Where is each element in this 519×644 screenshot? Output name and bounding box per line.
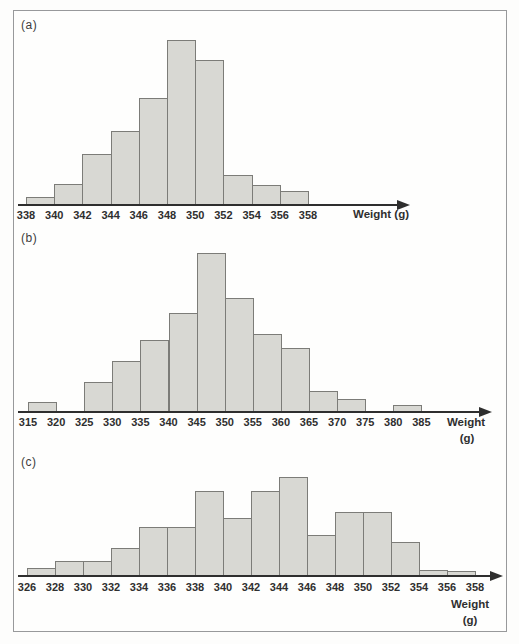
histogram-bar (195, 60, 224, 205)
x-tick-label: 346 (130, 209, 148, 221)
histogram-bar (279, 477, 308, 576)
panel-label-a: (a) (21, 18, 37, 32)
x-axis-line (18, 575, 493, 577)
histogram-bar (363, 512, 392, 576)
histogram-bar (84, 382, 113, 412)
histogram-bar (223, 175, 252, 205)
x-tick-label: 340 (214, 581, 232, 593)
x-tick-label: 330 (103, 416, 121, 428)
x-tick-label: 330 (74, 581, 92, 593)
histogram-bar (55, 561, 84, 576)
histogram-bar (281, 348, 310, 412)
x-tick-label: 338 (186, 581, 204, 593)
panel-label-b: (b) (21, 231, 37, 245)
x-tick-label: 340 (159, 416, 177, 428)
histogram-bar (307, 535, 336, 576)
histogram-bar (223, 518, 252, 576)
x-tick-label: 320 (47, 416, 65, 428)
x-tick-label: 360 (272, 416, 290, 428)
histogram-bar (82, 154, 111, 205)
histogram-bar (253, 334, 282, 412)
x-tick-label: 344 (270, 581, 288, 593)
histogram-bar (167, 527, 196, 576)
histogram-bar (139, 98, 168, 205)
histogram-bar (54, 184, 83, 205)
x-axis-arrow-icon (490, 571, 503, 581)
histogram-bar (225, 298, 254, 412)
histogram-bar (112, 361, 141, 412)
x-tick-label: 358 (299, 209, 317, 221)
histogram-bar (169, 313, 198, 412)
x-tick-label: 315 (19, 416, 37, 428)
x-tick-label: 348 (326, 581, 344, 593)
histogram-bar (140, 340, 169, 412)
histogram-bar (111, 131, 140, 205)
x-axis-line (18, 204, 400, 206)
histogram-bar (167, 40, 196, 205)
x-axis-arrow-icon (397, 200, 410, 210)
x-tick-label: 338 (17, 209, 35, 221)
histogram-bar (251, 491, 280, 576)
x-axis-label-c-line1: Weight (451, 598, 489, 610)
x-tick-label: 350 (354, 581, 372, 593)
x-tick-label: 350 (186, 209, 204, 221)
x-tick-label: 325 (75, 416, 93, 428)
x-tick-label: 326 (18, 581, 36, 593)
x-tick-label: 350 (216, 416, 234, 428)
x-tick-label: 342 (73, 209, 91, 221)
histogram-bar (83, 561, 112, 576)
x-tick-label: 358 (466, 581, 484, 593)
x-tick-label: 356 (438, 581, 456, 593)
x-tick-label: 356 (271, 209, 289, 221)
x-axis-label-b-line2: (g) (460, 432, 475, 444)
x-tick-label: 375 (356, 416, 374, 428)
x-tick-label: 334 (130, 581, 148, 593)
histogram-bar (280, 191, 309, 205)
x-tick-label: 342 (242, 581, 260, 593)
x-tick-label: 332 (102, 581, 120, 593)
histogram-bar (195, 491, 224, 576)
x-axis-line (18, 411, 482, 413)
histogram-bar (252, 185, 281, 205)
x-tick-label: 352 (214, 209, 232, 221)
x-tick-label: 380 (384, 416, 402, 428)
panel-label-c: (c) (21, 455, 37, 469)
x-tick-label: 328 (46, 581, 64, 593)
x-tick-label: 370 (328, 416, 346, 428)
x-tick-label: 340 (45, 209, 63, 221)
x-tick-label: 365 (300, 416, 318, 428)
figure-canvas: (a) (b) (c) Weight (g) Weight (g) Weight… (0, 0, 519, 644)
x-tick-label: 336 (158, 581, 176, 593)
x-tick-label: 354 (242, 209, 260, 221)
histogram-bar (391, 542, 420, 576)
x-tick-label: 335 (131, 416, 149, 428)
histogram-bar (197, 253, 226, 412)
histogram-bar (139, 527, 168, 576)
histogram-bar (335, 512, 364, 576)
histogram-bar (309, 391, 338, 412)
x-axis-arrow-icon (479, 407, 492, 417)
x-tick-label: 344 (101, 209, 119, 221)
x-tick-label: 355 (244, 416, 262, 428)
x-tick-label: 345 (187, 416, 205, 428)
x-axis-label-b-line1: Weight (447, 416, 485, 428)
x-axis-label-c-line2: (g) (463, 614, 478, 626)
x-tick-label: 385 (412, 416, 430, 428)
x-tick-label: 346 (298, 581, 316, 593)
x-tick-label: 354 (410, 581, 428, 593)
x-tick-label: 352 (382, 581, 400, 593)
x-tick-label: 348 (158, 209, 176, 221)
histogram-bar (111, 548, 140, 576)
